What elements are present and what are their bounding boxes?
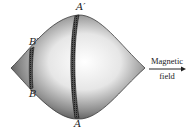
label-b-prime: B′: [29, 37, 39, 47]
label-a-prime: A′: [76, 2, 86, 12]
label-a: A: [74, 119, 81, 129]
field-line2: field: [147, 71, 187, 82]
magnetic-field-label: Magnetic field: [147, 56, 187, 81]
label-b: B: [29, 89, 36, 99]
field-line1: Magnetic: [147, 56, 187, 67]
